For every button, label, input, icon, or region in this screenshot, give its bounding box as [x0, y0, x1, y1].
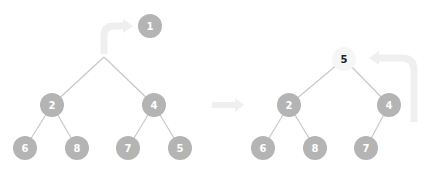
- svg-text:5: 5: [177, 143, 184, 154]
- svg-text:4: 4: [386, 100, 393, 111]
- svg-text:6: 6: [22, 143, 29, 154]
- after-node-8: 8: [303, 136, 327, 160]
- svg-text:1: 1: [147, 21, 154, 32]
- before-node-6: 6: [13, 136, 37, 160]
- after-node-2: 2: [277, 93, 301, 117]
- svg-text:6: 6: [260, 143, 267, 154]
- svg-text:7: 7: [125, 143, 132, 154]
- svg-text:4: 4: [151, 100, 158, 111]
- after-node-5-root: 5: [332, 47, 356, 71]
- after-node-4: 4: [377, 93, 401, 117]
- heap-diagram: 1 2 4 6 8 7 5 5 2 4 6 8 7: [0, 0, 433, 171]
- remove-root-arrow-icon: [104, 19, 133, 54]
- svg-text:2: 2: [49, 100, 56, 111]
- after-node-7: 7: [354, 136, 378, 160]
- before-node-4: 4: [142, 93, 166, 117]
- svg-text:8: 8: [312, 143, 319, 154]
- removed-root-node: 1: [138, 14, 162, 38]
- after-node-6: 6: [251, 136, 275, 160]
- svg-text:2: 2: [286, 100, 293, 111]
- before-node-2: 2: [40, 93, 64, 117]
- svg-text:7: 7: [363, 143, 370, 154]
- before-node-7: 7: [116, 136, 140, 160]
- before-node-5: 5: [168, 136, 192, 160]
- svg-text:5: 5: [341, 54, 348, 65]
- transition-arrow-icon: [212, 98, 244, 112]
- before-node-8: 8: [65, 136, 89, 160]
- svg-text:8: 8: [74, 143, 81, 154]
